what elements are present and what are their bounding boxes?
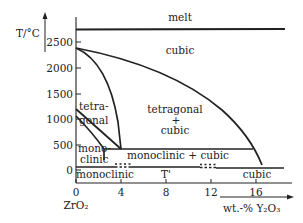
label-melt: melt (168, 11, 193, 23)
label-cubic-mid: cubic (161, 124, 190, 136)
x-axis-arrow-icon (287, 195, 294, 200)
x-tick-12: 12 (204, 179, 217, 198)
y-axis: T/°C 2500 2000 1500 1000 500 0 (16, 12, 81, 183)
label-cubic-bottom: cubic (243, 168, 272, 180)
svg-text:4: 4 (118, 186, 125, 198)
x-tick-16: 16 (249, 179, 263, 198)
svg-text:12: 12 (204, 186, 217, 198)
svg-text:2000: 2000 (46, 62, 73, 74)
y-axis-label: T/°C (16, 27, 40, 39)
x-tick-8: 8 (163, 179, 170, 198)
svg-text:8: 8 (163, 186, 170, 198)
label-monoclinic-bottom: monoclinic (76, 168, 134, 180)
tetragonal-boundary (76, 48, 121, 149)
svg-text:2500: 2500 (46, 36, 73, 48)
svg-text:0: 0 (73, 186, 80, 198)
phase-diagram: T/°C 2500 2000 1500 1000 500 0 0 4 (0, 0, 303, 223)
svg-text:1500: 1500 (46, 88, 73, 100)
y-tick-500: 500 (53, 139, 81, 151)
svg-text:0: 0 (66, 164, 73, 176)
label-tetra-2: gonal (79, 114, 109, 126)
label-mono-2: clinic (80, 153, 109, 165)
region-labels: melt cubic tetra- gonal tetragonal + cub… (76, 11, 271, 180)
x-axis-label: wt.-% Y₂O₃ (223, 202, 280, 214)
label-cubic-top: cubic (166, 44, 195, 56)
y-axis-arrow-icon (43, 12, 48, 19)
svg-text:500: 500 (53, 139, 73, 151)
label-monoclinic-cubic: monoclinic + cubic (127, 149, 229, 161)
x-tick-0: 0 (73, 179, 80, 198)
svg-text:1000: 1000 (46, 113, 73, 125)
label-tetra-1: tetra- (79, 100, 109, 112)
label-t-prime: T' (161, 168, 171, 180)
x-tick-4: 4 (118, 179, 125, 198)
x-axis: 0 4 8 12 16 ZrO₂ wt.-% Y₂O₃ (63, 179, 294, 214)
x-origin-label: ZrO₂ (63, 199, 88, 211)
svg-text:16: 16 (249, 186, 263, 198)
